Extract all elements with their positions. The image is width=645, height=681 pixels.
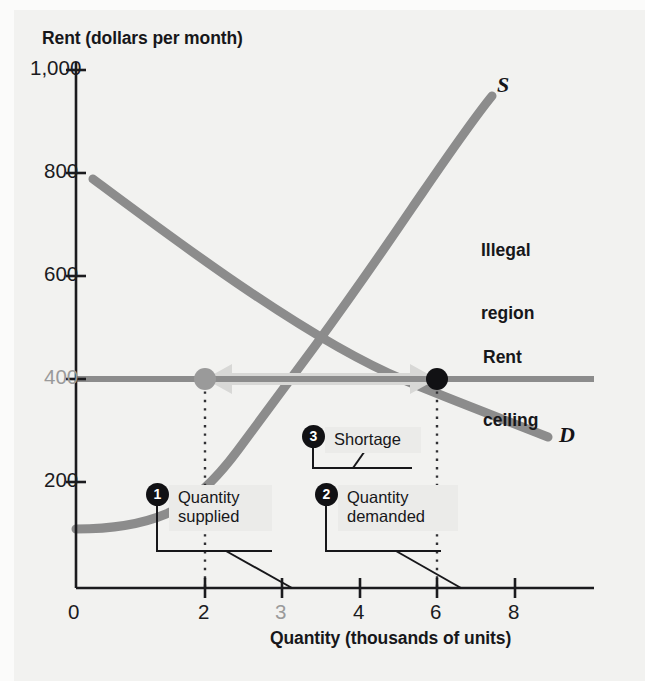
quantity-demanded-point [426,368,448,390]
callout-3-text: Shortage [325,427,421,453]
callout-2-line-2: demanded [347,507,450,526]
illegal-region-line-1: Illegal [481,240,534,261]
y-tick-label-400: 400 [44,365,78,389]
x-tick-label-2: 2 [198,600,209,624]
rent-ceiling-label: Rent ceiling [483,305,538,473]
callout-1-badge: 1 [146,483,169,506]
supply-curve-label: S [497,72,509,98]
y-tick-label-200: 200 [44,468,78,492]
x-axis-title: Quantity (thousands of units) [270,628,511,649]
rent-ceiling-line-2: ceiling [483,410,538,431]
x-tick-label-6: 6 [430,600,441,624]
demand-curve [93,179,548,437]
callout-3-badge: 3 [302,425,325,448]
callout-1-text: Quantity supplied [169,485,272,531]
quantity-supplied-point [194,368,216,390]
y-tick-label-800: 800 [44,159,78,183]
y-tick-label-1000: 1,000 [30,56,81,80]
demand-curve-label: D [559,422,575,448]
x-tick-label-3: 3 [275,600,286,624]
callout-1-line-1: Quantity [178,488,264,507]
callout-2-badge: 2 [315,483,338,506]
chart-canvas [0,0,645,681]
rent-ceiling-line-1: Rent [483,347,538,368]
x-tick-label-4: 4 [353,600,364,624]
callout-1-line-2: supplied [178,507,264,526]
x-tick-label-0: 0 [68,600,79,624]
y-axis-title: Rent (dollars per month) [42,28,243,49]
y-tick-label-600: 600 [44,262,78,286]
callout-2-line-1: Quantity [347,488,450,507]
rent-ceiling-figure: Rent (dollars per month) Quantity (thous… [0,0,645,681]
callout-2-text: Quantity demanded [338,485,458,531]
x-tick-label-8: 8 [508,600,519,624]
